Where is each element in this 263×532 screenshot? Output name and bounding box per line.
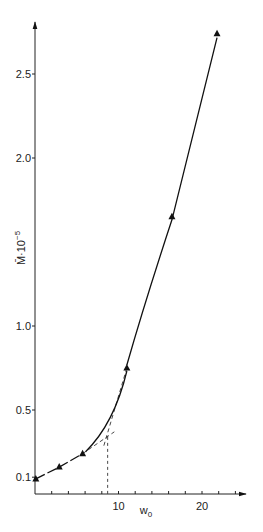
y-tick-label: 2.5 <box>16 68 31 80</box>
triangle-marker <box>214 30 221 37</box>
chart: 1020 0.10.51.02.02.5 w0 M̄·10−5 <box>0 0 263 532</box>
triangle-marker <box>79 450 86 457</box>
data-curve <box>36 38 217 479</box>
y-tick-label: 0.1 <box>16 471 31 483</box>
x-tick-label: 20 <box>196 500 208 512</box>
axes <box>35 22 246 494</box>
annotations <box>83 368 127 494</box>
y-ticks: 0.10.51.02.02.5 <box>16 68 35 483</box>
triangle-marker <box>123 364 130 371</box>
y-tick-label: 1.0 <box>16 320 31 332</box>
y-tick-label: 0.5 <box>16 404 31 416</box>
x-tick-label: 10 <box>112 500 124 512</box>
y-axis-label: M̄·10−5 <box>13 230 27 265</box>
triangle-marker <box>168 213 175 220</box>
y-tick-label: 2.0 <box>16 152 31 164</box>
x-axis-label: w0 <box>139 504 153 519</box>
data-markers <box>32 30 220 482</box>
